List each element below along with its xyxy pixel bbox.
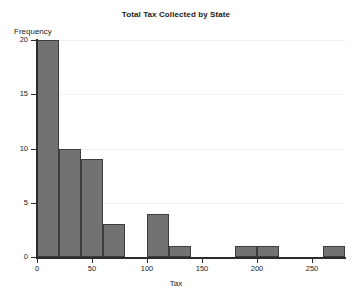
bar bbox=[323, 246, 345, 257]
plot-area bbox=[37, 40, 345, 257]
chart-title: Total Tax Collected by State bbox=[0, 10, 352, 19]
x-axis-title: Tax bbox=[0, 279, 352, 288]
gridline bbox=[37, 40, 345, 41]
y-tick-mark bbox=[31, 149, 36, 150]
bar bbox=[147, 214, 169, 257]
gridline bbox=[37, 149, 345, 150]
x-tick-mark bbox=[147, 259, 148, 263]
y-tick-label: 15 bbox=[20, 89, 28, 98]
x-tick-mark bbox=[202, 259, 203, 263]
bar bbox=[169, 246, 191, 257]
y-tick-label: 10 bbox=[20, 144, 28, 153]
bar bbox=[235, 246, 257, 257]
bar bbox=[59, 149, 81, 258]
y-tick-mark bbox=[31, 257, 36, 258]
x-tick-label: 200 bbox=[251, 264, 264, 273]
x-tick-mark bbox=[92, 259, 93, 263]
y-axis-line bbox=[36, 39, 38, 258]
bar bbox=[81, 159, 103, 257]
x-tick-label: 250 bbox=[306, 264, 319, 273]
x-tick-mark bbox=[37, 259, 38, 263]
x-tick-mark bbox=[257, 259, 258, 263]
y-tick-mark bbox=[31, 94, 36, 95]
histogram-figure: Total Tax Collected by State Frequency 0… bbox=[0, 0, 352, 301]
y-tick-label: 5 bbox=[24, 198, 28, 207]
x-tick-label: 100 bbox=[141, 264, 154, 273]
y-tick-mark bbox=[31, 203, 36, 204]
x-tick-mark bbox=[312, 259, 313, 263]
bar bbox=[103, 224, 125, 257]
x-tick-label: 50 bbox=[88, 264, 96, 273]
bar bbox=[257, 246, 279, 257]
y-tick-mark bbox=[31, 40, 36, 41]
x-tick-label: 0 bbox=[35, 264, 39, 273]
y-tick-label: 0 bbox=[24, 252, 28, 261]
gridline bbox=[37, 94, 345, 95]
bar bbox=[37, 40, 59, 257]
x-axis-line bbox=[36, 257, 346, 259]
y-tick-label: 20 bbox=[20, 35, 28, 44]
x-tick-label: 150 bbox=[196, 264, 209, 273]
